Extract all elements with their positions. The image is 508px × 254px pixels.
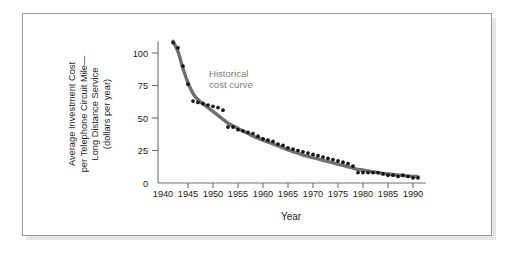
x-tick-1955: 1955 <box>228 183 248 199</box>
y-tick-50: 50 <box>138 114 158 124</box>
data-point <box>291 147 295 151</box>
y-tick-25: 25 <box>138 146 158 156</box>
data-point <box>206 103 210 107</box>
data-point <box>401 173 405 177</box>
cost-curve-chart: 100 75 50 25 0 <box>23 14 491 235</box>
y-tick-label-75: 75 <box>138 81 148 91</box>
data-point <box>361 171 365 175</box>
data-point <box>351 164 355 168</box>
data-point <box>331 158 335 162</box>
x-tick-label-1960: 1960 <box>253 189 273 199</box>
data-point <box>346 162 350 166</box>
y-tick-0: 0 <box>143 179 148 189</box>
data-point <box>271 140 275 144</box>
y-axis-title-line-3: Long Distance Service <box>90 67 100 160</box>
data-point <box>221 108 225 112</box>
x-tick-1950: 1950 <box>203 183 223 199</box>
x-tick-label-1945: 1945 <box>178 189 198 199</box>
annotation-line-2: cost curve <box>209 79 253 90</box>
y-tick-label-100: 100 <box>133 49 148 59</box>
x-tick-label-1965: 1965 <box>278 189 298 199</box>
data-point <box>176 46 180 50</box>
data-point <box>381 172 385 176</box>
screenshot-page: 100 75 50 25 0 <box>0 0 508 254</box>
data-point <box>231 125 235 129</box>
data-point <box>286 146 290 150</box>
x-tick-label-1975: 1975 <box>328 189 348 199</box>
data-point <box>341 160 345 164</box>
data-point <box>256 134 260 138</box>
y-tick-label-0: 0 <box>143 179 148 189</box>
x-tick-label-1990: 1990 <box>403 189 423 199</box>
data-point <box>216 106 220 110</box>
data-point <box>301 150 305 154</box>
x-tick-1970: 1970 <box>303 183 323 199</box>
x-tick-1960: 1960 <box>253 183 273 199</box>
data-point-markers <box>171 41 420 180</box>
x-tick-label-1970: 1970 <box>303 189 323 199</box>
data-point <box>246 130 250 134</box>
data-point <box>181 64 185 68</box>
x-axis-ticks: 1940 1945 1950 1955 1960 <box>153 183 423 199</box>
data-point <box>321 155 325 159</box>
data-point <box>196 101 200 105</box>
data-point <box>371 171 375 175</box>
x-tick-1985: 1985 <box>378 183 398 199</box>
y-tick-100: 100 <box>133 49 158 59</box>
data-point <box>336 159 340 163</box>
x-tick-1945: 1945 <box>178 183 198 199</box>
data-point <box>201 102 205 106</box>
data-point <box>411 176 415 180</box>
data-point <box>241 129 245 133</box>
x-tick-label-1985: 1985 <box>378 189 398 199</box>
x-tick-1980: 1980 <box>353 183 373 199</box>
figure-frame: 100 75 50 25 0 <box>22 13 492 236</box>
annotation-line-1: Historical <box>209 68 248 79</box>
y-axis-title-line-4: (dollars per year) <box>102 79 112 149</box>
data-point <box>306 151 310 155</box>
data-point <box>391 173 395 177</box>
data-point <box>281 143 285 147</box>
data-point <box>326 156 330 160</box>
data-point <box>261 137 265 141</box>
historical-cost-curve-annotation: Historical cost curve <box>209 68 253 90</box>
y-axis-ticks: 100 75 50 25 0 <box>133 49 158 189</box>
x-axis-title: Year <box>281 211 302 222</box>
data-point <box>396 175 400 179</box>
data-point <box>266 138 270 142</box>
data-point <box>186 82 190 86</box>
x-tick-label-1955: 1955 <box>228 189 248 199</box>
y-tick-label-50: 50 <box>138 114 148 124</box>
x-tick-label-1950: 1950 <box>203 189 223 199</box>
data-point <box>276 142 280 146</box>
data-point <box>356 171 360 175</box>
y-tick-label-25: 25 <box>138 146 148 156</box>
x-tick-1940: 1940 <box>153 189 173 199</box>
data-point <box>211 104 215 108</box>
historical-cost-curve-line <box>173 41 418 176</box>
x-tick-label-1940: 1940 <box>153 189 173 199</box>
data-point <box>191 99 195 103</box>
y-axis-title-line-1: Average Investment Cost <box>67 61 77 166</box>
y-axis-title-line-2: per Telephone Circuit Mile— <box>79 55 89 172</box>
data-point <box>251 132 255 136</box>
data-point <box>171 41 175 45</box>
data-point <box>376 171 380 175</box>
axis-lines <box>158 41 426 183</box>
data-point <box>406 175 410 179</box>
data-point <box>316 154 320 158</box>
fitted-cost-curve-path <box>173 41 418 176</box>
x-tick-1975: 1975 <box>328 183 348 199</box>
x-tick-label-1980: 1980 <box>353 189 373 199</box>
y-axis-title: Average Investment Cost per Telephone Ci… <box>67 55 112 172</box>
x-tick-1965: 1965 <box>278 183 298 199</box>
data-point <box>226 125 230 129</box>
data-point <box>386 173 390 177</box>
data-point <box>296 149 300 153</box>
data-point <box>236 128 240 132</box>
data-point <box>311 153 315 157</box>
y-tick-75: 75 <box>138 81 158 91</box>
x-tick-1990: 1990 <box>403 183 423 199</box>
data-point <box>366 171 370 175</box>
data-point <box>416 176 420 180</box>
